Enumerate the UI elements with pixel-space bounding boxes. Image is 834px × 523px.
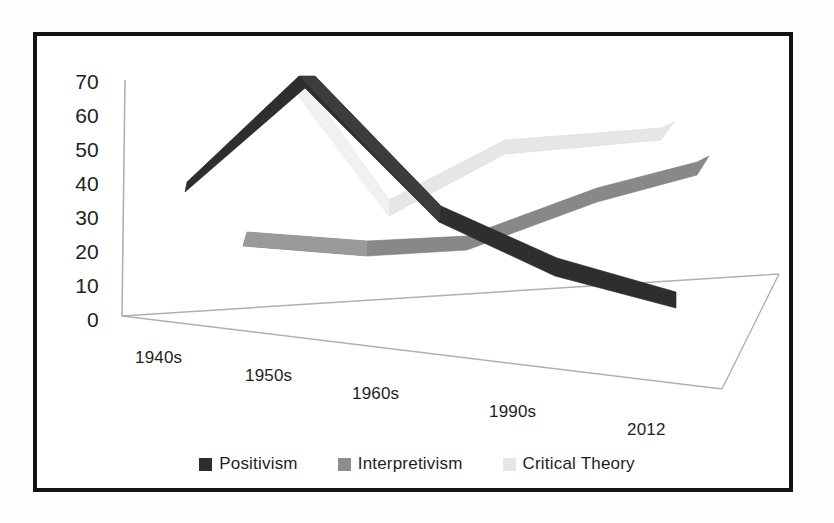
y-tick-10: 10 <box>47 274 99 298</box>
x-tick-1990s: 1990s <box>489 402 536 422</box>
legend-swatch-interpretivism <box>338 458 351 471</box>
x-tick-2012: 2012 <box>627 420 666 440</box>
legend-swatch-positivism <box>199 458 212 471</box>
chart-svg <box>37 36 797 496</box>
legend-item-interpretivism[interactable]: Interpretivism <box>338 454 463 474</box>
chart-legend: Positivism Interpretivism Critical Theor… <box>37 454 797 474</box>
screenshot-root: 70 60 50 40 30 20 10 0 1940s 1950s 1960s… <box>0 0 834 523</box>
x-tick-1960s: 1960s <box>352 384 399 404</box>
y-axis-line <box>122 80 125 316</box>
y-tick-60: 60 <box>47 104 99 128</box>
legend-label-positivism: Positivism <box>219 454 298 474</box>
floor-front-edge <box>122 316 722 389</box>
floor-depth-edge <box>122 274 779 316</box>
y-tick-50: 50 <box>47 138 99 162</box>
chart-plot-area: 70 60 50 40 30 20 10 0 1940s 1950s 1960s… <box>37 36 797 496</box>
legend-label-critical-theory: Critical Theory <box>523 454 635 474</box>
series-interpretivism <box>243 156 709 256</box>
legend-item-critical-theory[interactable]: Critical Theory <box>503 454 635 474</box>
floor-right-edge <box>722 274 779 389</box>
y-tick-0: 0 <box>47 308 99 332</box>
y-tick-70: 70 <box>47 70 99 94</box>
legend-item-positivism[interactable]: Positivism <box>199 454 298 474</box>
legend-label-interpretivism: Interpretivism <box>358 454 463 474</box>
x-tick-1940s: 1940s <box>135 348 182 368</box>
x-tick-1950s: 1950s <box>245 366 292 386</box>
figure-frame: 70 60 50 40 30 20 10 0 1940s 1950s 1960s… <box>33 32 793 492</box>
y-tick-30: 30 <box>47 206 99 230</box>
legend-swatch-critical-theory <box>503 458 516 471</box>
y-tick-40: 40 <box>47 172 99 196</box>
y-tick-20: 20 <box>47 240 99 264</box>
